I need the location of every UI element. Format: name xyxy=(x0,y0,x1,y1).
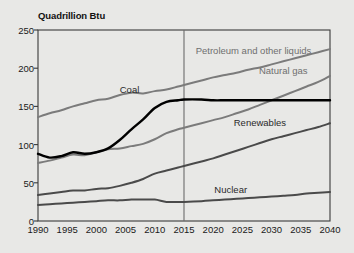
x-tick-2000: 2000 xyxy=(86,224,107,235)
x-tick-2015: 2015 xyxy=(173,224,194,235)
x-tick-2010: 2010 xyxy=(144,224,165,235)
x-tick-2040: 2040 xyxy=(319,224,340,235)
x-tick-2005: 2005 xyxy=(115,224,136,235)
series-label-natural-gas: Natural gas xyxy=(259,65,308,76)
x-tick-2030: 2030 xyxy=(261,224,282,235)
series-label-renewables: Renewables xyxy=(234,117,286,128)
series-label-coal: Coal xyxy=(120,84,140,95)
x-tick-2025: 2025 xyxy=(232,224,253,235)
x-tick-2035: 2035 xyxy=(290,224,311,235)
x-tick-1990: 1990 xyxy=(27,224,48,235)
x-tick-2020: 2020 xyxy=(203,224,224,235)
chart-plot-area xyxy=(0,0,354,253)
x-tick-1995: 1995 xyxy=(57,224,78,235)
chart-figure: Quadrillion Btu 250 200 150 100 50 0 199… xyxy=(0,0,354,253)
series-label-petroleum: Petroleum and other liquids xyxy=(196,45,312,56)
series-label-nuclear: Nuclear xyxy=(214,184,247,195)
